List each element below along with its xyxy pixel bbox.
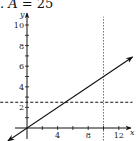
x-axis-label: x [130, 128, 135, 137]
axis-ticks: 4812246810 [14, 21, 124, 140]
axes: xy [15, 10, 135, 139]
y-tick-label: 2 [19, 103, 24, 112]
x-tick-label: 12 [114, 131, 124, 140]
y-tick-label: 10 [14, 21, 24, 30]
y-tick-label: 4 [19, 83, 24, 92]
y-axis-label: y [19, 10, 25, 19]
y-tick-label: 6 [19, 62, 24, 71]
y-tick-label: 8 [19, 42, 24, 51]
plot-series [0, 17, 132, 141]
x-tick-label: 8 [86, 131, 91, 140]
coordinate-graph: xy 4812246810 [0, 0, 136, 141]
x-tick-label: 4 [55, 131, 60, 140]
